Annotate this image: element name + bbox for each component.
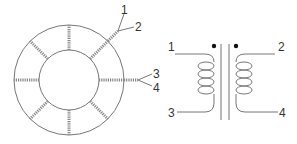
toroid-inner-circle: [39, 50, 99, 110]
secondary-loop-4: [236, 86, 252, 94]
primary-loop-2: [198, 70, 214, 78]
transformer-symbol: 1 2 3 4: [168, 40, 286, 120]
toroid-label-4: 4: [153, 81, 160, 95]
secondary-loop-1: [236, 62, 252, 70]
primary-lead-top: [175, 54, 214, 62]
secondary-lead-bottom: [236, 94, 278, 112]
diagram-canvas: 1 2 3 4 1 2 3 4: [0, 0, 297, 144]
toroid-windings: [14, 14, 152, 135]
secondary-loop-2: [236, 70, 252, 78]
polarity-dot-secondary: [234, 44, 238, 48]
primary-loop-3: [198, 78, 214, 86]
lead-2: [118, 27, 134, 31]
winding-nw: [30, 41, 48, 59]
secondary-loop-3: [236, 78, 252, 86]
winding-se: [90, 101, 108, 119]
winding-ne-extension: [108, 31, 118, 41]
pin-label-1: 1: [168, 40, 175, 54]
lead-4: [138, 80, 152, 86]
toroid-label-1: 1: [121, 3, 128, 17]
primary-coil: [175, 54, 214, 112]
winding-sw: [30, 101, 48, 119]
secondary-lead-top: [236, 54, 275, 62]
winding-ne: [90, 41, 108, 59]
lead-3: [138, 74, 152, 80]
primary-lead-bottom: [177, 94, 214, 112]
primary-loop-1: [198, 62, 214, 70]
toroid-label-3: 3: [153, 67, 160, 81]
pin-label-3: 3: [168, 106, 175, 120]
polarity-dot-primary: [212, 44, 216, 48]
toroid-label-2: 2: [135, 20, 142, 34]
primary-loop-4: [198, 86, 214, 94]
pin-label-4: 4: [279, 106, 286, 120]
secondary-coil: [236, 54, 278, 112]
pin-label-2: 2: [278, 40, 285, 54]
